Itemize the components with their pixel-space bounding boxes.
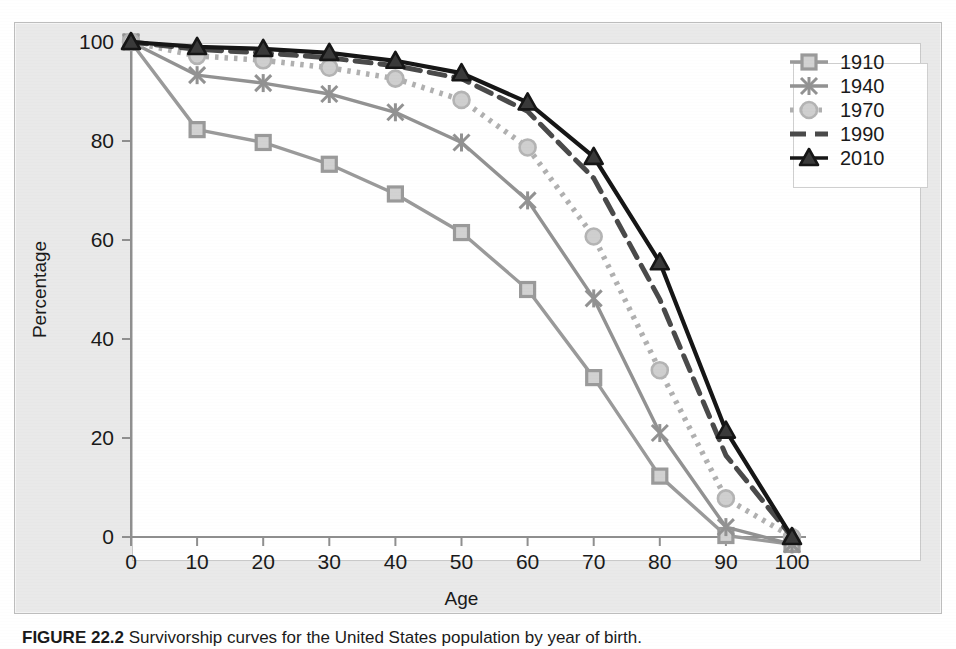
y-tick-label: 40 — [91, 327, 114, 350]
marker-square — [653, 469, 667, 483]
axes-layer — [122, 42, 806, 546]
x-tick-label: 20 — [252, 550, 275, 573]
marker-square — [190, 123, 204, 137]
marker-triangle — [717, 422, 735, 438]
series-layer — [122, 33, 801, 553]
series-line-1940 — [131, 42, 792, 544]
legend-entry-1910[interactable]: 1910 — [790, 51, 885, 73]
series-1970 — [123, 34, 800, 545]
marker-circle — [718, 490, 734, 506]
series-line-1910 — [131, 42, 792, 544]
series-2010 — [122, 33, 801, 544]
y-tick-label: 0 — [102, 525, 114, 548]
marker-circle — [586, 229, 602, 245]
marker-square — [802, 55, 816, 69]
legend-label-1940: 1940 — [840, 75, 885, 97]
series-1940 — [123, 33, 800, 553]
x-tick-label: 10 — [185, 550, 208, 573]
marker-circle — [454, 92, 470, 108]
marker-square — [388, 187, 402, 201]
marker-square — [587, 371, 601, 385]
y-tick-label: 80 — [91, 129, 114, 152]
y-tick-label: 20 — [91, 426, 114, 449]
marker-circle — [652, 362, 668, 378]
x-tick-label: 0 — [125, 550, 137, 573]
caption-label: FIGURE 22.2 — [22, 628, 124, 647]
caption-text: Survivorship curves for the United State… — [129, 628, 642, 647]
x-tick-label: 60 — [516, 550, 539, 573]
y-tick-label: 60 — [91, 228, 114, 251]
marker-circle — [387, 71, 403, 87]
x-tick-label: 50 — [450, 550, 473, 573]
x-tick-label: 100 — [774, 550, 809, 573]
series-1990 — [131, 42, 792, 537]
x-tick-label: 80 — [648, 550, 671, 573]
marker-square — [521, 283, 535, 297]
series-line-1970 — [131, 42, 792, 537]
legend-label-1990: 1990 — [840, 123, 885, 145]
legend-label-2010: 2010 — [840, 147, 885, 169]
marker-circle — [321, 60, 337, 76]
x-axis-title: Age — [445, 588, 479, 609]
marker-square — [256, 135, 270, 149]
legend-label-1970: 1970 — [840, 99, 885, 121]
legend-entry-1970[interactable]: 1970 — [790, 99, 885, 121]
x-tick-label: 70 — [582, 550, 605, 573]
labels-layer: 0204060801000102030405060708090100AgePer… — [29, 30, 810, 609]
legend-label-1910: 1910 — [840, 51, 885, 73]
series-line-1990 — [131, 42, 792, 537]
y-axis-title: Percentage — [29, 241, 50, 338]
marker-circle — [801, 102, 817, 118]
x-tick-label: 90 — [714, 550, 737, 573]
marker-circle — [520, 139, 536, 155]
figure-root: 0204060801000102030405060708090100AgePer… — [0, 0, 956, 649]
legend-entry-1990[interactable]: 1990 — [790, 123, 885, 145]
y-tick-label: 100 — [79, 30, 114, 53]
x-tick-label: 30 — [318, 550, 341, 573]
survivorship-chart: 0204060801000102030405060708090100AgePer… — [0, 0, 956, 649]
series-1910 — [124, 35, 799, 551]
figure-caption: FIGURE 22.2 Survivorship curves for the … — [22, 628, 922, 649]
series-line-2010 — [131, 42, 792, 537]
legend-entry-1940[interactable]: 1940 — [790, 75, 885, 97]
legend-entry-2010[interactable]: 2010 — [790, 147, 885, 169]
marker-square — [455, 226, 469, 240]
marker-square — [322, 157, 336, 171]
legend-layer: 19101940197019902010 — [790, 51, 885, 169]
x-tick-label: 40 — [384, 550, 407, 573]
